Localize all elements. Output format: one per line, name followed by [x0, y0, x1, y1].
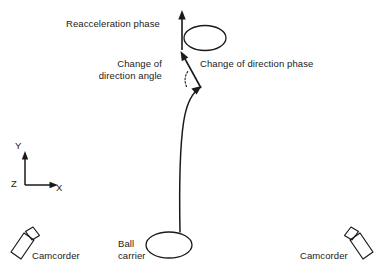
angle-arc-dotted-icon: [185, 71, 188, 87]
change-of-direction-arrow-icon: [181, 51, 202, 88]
label-change-of-direction-phase: Change of direction phase: [200, 58, 313, 70]
diagram-graphics: [0, 0, 384, 275]
label-cod-angle-line2: direction angle: [99, 70, 162, 81]
label-cod-angle-line1: Change of: [117, 58, 162, 69]
label-ball-carrier-line1: Ball: [118, 238, 134, 249]
label-camcorder-left: Camcorder: [32, 250, 80, 262]
label-reacceleration-phase: Reacceleration phase: [66, 18, 160, 30]
label-change-of-direction-angle: Change ofdirection angle: [90, 58, 162, 81]
defender-ellipse-icon: [184, 26, 226, 51]
running-path-arrow-icon: [180, 86, 202, 232]
label-ball-carrier-line2: carrier: [118, 250, 146, 261]
label-axis-z: Z: [11, 178, 17, 189]
coordinate-axis-icon: [22, 151, 58, 188]
label-camcorder-right: Camcorder: [300, 250, 348, 262]
label-ball-carrier: Ballcarrier: [118, 238, 148, 261]
label-axis-x: X: [56, 182, 62, 193]
diagram-canvas: Reacceleration phase Change ofdirection …: [0, 0, 384, 275]
ball-carrier-ellipse-icon: [146, 232, 192, 258]
label-axis-y: Y: [15, 140, 21, 151]
camcorder-right-icon: [345, 227, 374, 259]
reacceleration-arrow-icon: [178, 10, 185, 50]
